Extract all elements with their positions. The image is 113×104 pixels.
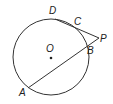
label-c: C (74, 16, 82, 27)
label-b: B (87, 45, 94, 56)
label-d: D (49, 5, 56, 16)
label-a: A (18, 87, 26, 98)
center-point (50, 57, 53, 60)
geometry-diagram: D C P B O A (0, 0, 113, 104)
label-o: O (46, 43, 54, 54)
label-p: P (100, 33, 107, 44)
